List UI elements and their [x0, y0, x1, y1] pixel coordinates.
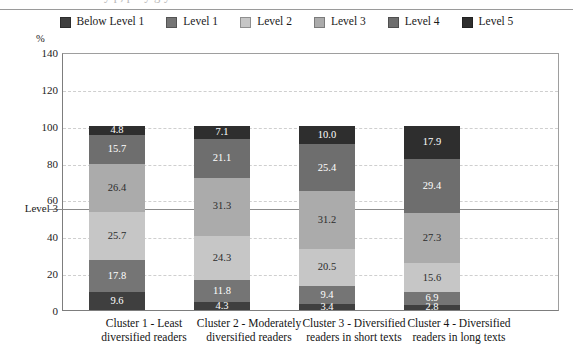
- legend-item-5[interactable]: Level 5: [462, 16, 514, 28]
- bar-segment-value-label: 9.6: [110, 296, 123, 307]
- legend-item-label: Level 4: [405, 16, 440, 28]
- legend-swatch-icon: [240, 17, 251, 28]
- legend-item-label: Level 3: [331, 16, 366, 28]
- bar-segment[interactable]: 15.6: [404, 263, 460, 292]
- legend-item-label: Level 5: [479, 16, 514, 28]
- bar-segment-value-label: 2.8: [425, 302, 438, 313]
- bar-segment[interactable]: 20.5: [299, 249, 355, 287]
- bar-segment[interactable]: 4.3: [194, 302, 250, 310]
- legend-item-label: Level 1: [183, 16, 218, 28]
- chart-page: y p, p f y g y Below Level 1Level 1Level…: [0, 0, 573, 349]
- legend-item-3[interactable]: Level 3: [314, 16, 366, 28]
- bar-segment-value-label: 10.0: [318, 130, 336, 141]
- bar-segment-value-label: 25.4: [318, 163, 336, 174]
- bar-segment[interactable]: 27.3: [404, 213, 460, 263]
- bar-segment-value-label: 26.4: [108, 183, 126, 194]
- cropped-title-text: y p, p f y g y: [104, 0, 170, 4]
- bar-segment[interactable]: 10.0: [299, 126, 355, 144]
- legend-item-0[interactable]: Below Level 1: [60, 16, 145, 28]
- y-tick-0: 0: [18, 305, 58, 317]
- x-label-line2: readers in long texts: [394, 330, 524, 344]
- stacked-bar-cluster-3[interactable]: 10.025.431.220.59.43.4: [299, 126, 355, 310]
- bar-segment-value-label: 9.4: [320, 290, 333, 301]
- plot-area: 4.815.726.425.717.89.67.121.131.324.311.…: [62, 53, 559, 311]
- bar-segment[interactable]: 17.9: [404, 126, 460, 159]
- legend-swatch-icon: [166, 17, 177, 28]
- bar-segment[interactable]: 7.1: [194, 126, 250, 139]
- bar-segment[interactable]: 24.3: [194, 236, 250, 281]
- bars-group: 4.815.726.425.717.89.67.121.131.324.311.…: [63, 54, 558, 310]
- bar-segment-value-label: 17.8: [108, 271, 126, 282]
- bar-segment-value-label: 17.9: [423, 137, 441, 148]
- legend-item-2[interactable]: Level 2: [240, 16, 292, 28]
- bar-segment-value-label: 15.7: [108, 144, 126, 155]
- bar-segment-value-label: 20.5: [318, 262, 336, 273]
- legend-item-4[interactable]: Level 4: [388, 16, 440, 28]
- x-axis-category-labels: Cluster 1 - Leastdiversified readersClus…: [62, 316, 559, 349]
- bar-segment-value-label: 31.2: [318, 215, 336, 226]
- bar-segment[interactable]: 3.4: [299, 304, 355, 310]
- bar-segment-value-label: 4.3: [215, 301, 228, 312]
- bar-segment[interactable]: 11.8: [194, 280, 250, 302]
- y-axis-tick-labels: 140120100806040200: [14, 53, 58, 311]
- y-tick-120: 120: [18, 84, 58, 96]
- stacked-bar-cluster-2[interactable]: 7.121.131.324.311.84.3: [194, 126, 250, 310]
- bar-segment-value-label: 25.7: [108, 231, 126, 242]
- bar-segment-value-label: 3.4: [320, 302, 333, 313]
- legend-item-label: Level 2: [257, 16, 292, 28]
- bar-segment[interactable]: 29.4: [404, 159, 460, 213]
- bar-segment-value-label: 29.4: [423, 181, 441, 192]
- bar-segment-value-label: 21.1: [213, 153, 231, 164]
- legend-swatch-icon: [388, 17, 399, 28]
- x-label-line1: Cluster 4 - Diversified: [394, 316, 524, 330]
- bar-segment-value-label: 11.8: [213, 286, 231, 297]
- bar-segment-value-label: 24.3: [213, 253, 231, 264]
- y-axis-unit-label: %: [36, 33, 45, 44]
- bar-segment[interactable]: 9.6: [89, 292, 145, 310]
- bar-segment[interactable]: 25.7: [89, 212, 145, 259]
- y-tick-80: 80: [18, 158, 58, 170]
- legend-swatch-icon: [462, 17, 473, 28]
- legend-swatch-icon: [314, 17, 325, 28]
- bar-segment-value-label: 27.3: [423, 233, 441, 244]
- bar-segment-value-label: 15.6: [423, 273, 441, 284]
- y-tick-20: 20: [18, 268, 58, 280]
- bar-segment[interactable]: 25.4: [299, 144, 355, 191]
- legend-item-label: Below Level 1: [77, 16, 145, 28]
- stacked-bar-cluster-4[interactable]: 17.929.427.315.66.92.8: [404, 126, 460, 310]
- bar-segment[interactable]: 17.8: [89, 260, 145, 293]
- bar-segment-value-label: 7.1: [215, 127, 228, 138]
- chart-legend: Below Level 1Level 1Level 2Level 3Level …: [0, 14, 573, 30]
- header-divider-rule: [0, 9, 573, 10]
- legend-swatch-icon: [60, 17, 71, 28]
- y-tick-140: 140: [18, 47, 58, 59]
- bar-segment[interactable]: 4.8: [89, 126, 145, 135]
- y-tick-100: 100: [18, 121, 58, 133]
- level3-reference-label: Level 3: [0, 202, 58, 214]
- bar-segment-value-label: 31.3: [213, 201, 231, 212]
- x-label-cluster-4: Cluster 4 - Diversifiedreaders in long t…: [394, 316, 524, 344]
- bar-segment[interactable]: 31.3: [194, 178, 250, 236]
- bar-segment[interactable]: 15.7: [89, 135, 145, 164]
- stacked-bar-cluster-1[interactable]: 4.815.726.425.717.89.6: [89, 126, 145, 310]
- y-tick-40: 40: [18, 231, 58, 243]
- legend-item-1[interactable]: Level 1: [166, 16, 218, 28]
- bar-segment[interactable]: 31.2: [299, 191, 355, 248]
- bar-segment[interactable]: 21.1: [194, 139, 250, 178]
- bar-segment[interactable]: 26.4: [89, 164, 145, 213]
- bar-segment[interactable]: 2.8: [404, 305, 460, 310]
